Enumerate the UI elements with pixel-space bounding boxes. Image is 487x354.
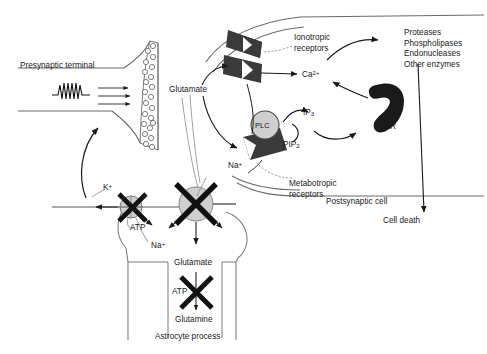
enzymes-label: Proteases Phospholipases Endonucleases O… <box>404 28 462 70</box>
arrow-ser-releases-calcium <box>333 82 368 98</box>
atp-pump-label: ATP <box>130 223 145 234</box>
glutamate-cleft-label: Glutamate <box>169 85 207 96</box>
pip2-sub: 2 <box>296 142 299 149</box>
sodium-cleft-charge: + <box>239 160 243 167</box>
astrocyte-process-label: Astrocyte process <box>155 332 220 343</box>
ip3-label: IP3 <box>303 108 314 119</box>
ip3-text: IP <box>303 108 311 117</box>
ionotropic-receptor-2 <box>223 55 262 83</box>
leader-metabotropic-label <box>256 162 292 178</box>
arrow-receptor-to-calcium <box>261 73 297 74</box>
atp-synthase-label: ATP <box>172 287 187 298</box>
sodium-pump-charge: + <box>162 240 166 247</box>
sodium-cleft-text: Na <box>228 161 239 170</box>
potassium-charge: + <box>108 182 112 189</box>
excitotoxicity-figure: Presynaptic terminal Glutamate Ionotropi… <box>0 0 487 354</box>
synaptic-vesicles <box>141 43 155 149</box>
ionotropic-receptors-label: Ionotropic receptors <box>294 33 330 54</box>
calcium-text: Ca <box>302 70 313 79</box>
leader-ionotropic-label <box>262 46 292 52</box>
leader-glutamate-down-1 <box>190 95 200 183</box>
glutamate-astrocyte-label: Glutamate <box>174 258 212 269</box>
cell-death-label: Cell death <box>383 216 420 227</box>
postsynaptic-cell-label: Postsynaptic cell <box>326 197 387 208</box>
calcium-charge: 2+ <box>313 69 320 76</box>
pip2-text: PIP <box>283 140 296 149</box>
sodium-pump-text: Na <box>151 241 162 250</box>
arrow-ip3-to-ser <box>314 131 356 139</box>
sodium-pump-label: Na+ <box>151 240 165 252</box>
ip3-sub: 3 <box>311 110 314 117</box>
arrow-potassium-to-terminal <box>82 128 98 198</box>
glutamine-label: Glutamine <box>175 315 213 326</box>
conduction-arrows <box>98 88 130 104</box>
sodium-cleft-label: Na+ <box>228 160 242 172</box>
plc-label: PLC <box>255 121 270 130</box>
potassium-label: K+ <box>103 182 112 194</box>
arrow-enzymes-to-cell-death <box>418 64 424 212</box>
arrow-glutamate-to-metabotropic <box>203 96 237 148</box>
arrow-calcium-to-enzymes <box>327 40 378 60</box>
presynaptic-terminal-label: Presynaptic terminal <box>20 61 95 72</box>
ionotropic-receptor-1 <box>226 30 262 58</box>
leader-sodium-cleft <box>248 160 262 173</box>
pip2-label: PIP2 <box>283 140 300 151</box>
action-potential-trace <box>52 83 90 99</box>
calcium-label: Ca2+ <box>302 69 320 81</box>
ser-label: SER <box>379 122 396 133</box>
